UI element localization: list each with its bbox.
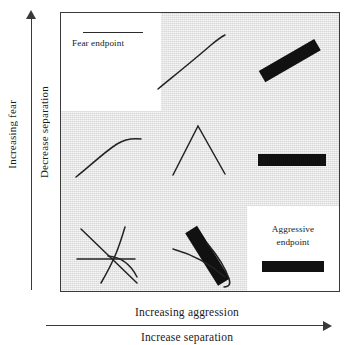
plateau-curve-glyph bbox=[73, 131, 153, 181]
fear-endpoint-panel: Fear endpoint bbox=[61, 13, 161, 111]
y-axis-label-outer: Increasing fear bbox=[6, 100, 18, 169]
figure-canvas: Increasing fear Decrease separation Fear… bbox=[0, 0, 352, 345]
x-axis-label-top: Increasing aggression bbox=[0, 306, 352, 318]
x-axis-label-bottom: Increase separation bbox=[0, 331, 352, 343]
rising-curve-glyph bbox=[155, 31, 231, 93]
aggressive-endpoint-label-line1: Aggressive bbox=[272, 224, 314, 234]
aggressive-endpoint-bar bbox=[262, 261, 324, 272]
fear-endpoint-rule bbox=[83, 32, 143, 33]
aggressive-endpoint-label-line2: endpoint bbox=[277, 237, 310, 247]
aggressive-endpoint-label: Aggressive endpoint bbox=[247, 223, 339, 248]
crossed-lines-glyph bbox=[75, 225, 153, 289]
right-arrow-icon bbox=[323, 321, 332, 331]
y-axis-line bbox=[31, 18, 32, 290]
aggressive-endpoint-panel: Aggressive endpoint bbox=[247, 206, 339, 291]
plot-area: Fear endpoint Aggressive endpoint bbox=[60, 12, 340, 292]
thick-diagonal-bar-glyph bbox=[255, 31, 325, 91]
fear-endpoint-label: Fear endpoint bbox=[65, 37, 157, 50]
peak-apex-glyph bbox=[169, 123, 231, 179]
horizontal-bar-glyph bbox=[257, 150, 329, 170]
x-axis-line bbox=[46, 325, 324, 326]
y-axis-label-inner: Decrease separation bbox=[38, 86, 50, 178]
thick-bar-with-curves-glyph bbox=[167, 221, 249, 291]
